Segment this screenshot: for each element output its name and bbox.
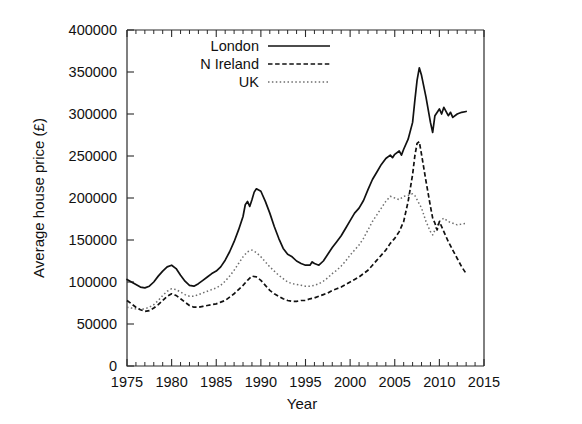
- y-axis-title: Average house price (£): [30, 118, 47, 278]
- x-axis-title: Year: [287, 395, 317, 412]
- legend-label: London: [211, 38, 259, 54]
- y-tick-label: 50000: [77, 316, 117, 332]
- y-tick-label: 250000: [69, 148, 117, 164]
- y-tick-label: 0: [109, 358, 117, 374]
- y-tick-label: 400000: [69, 22, 117, 38]
- x-tick-label: 2015: [468, 374, 500, 390]
- x-tick-label: 1985: [200, 374, 232, 390]
- y-tick-labels: 0500001000001500002000002500003000003500…: [69, 22, 117, 374]
- x-tick-label: 1990: [245, 374, 277, 390]
- x-tick-label: 1975: [111, 374, 143, 390]
- x-tick-label: 2000: [334, 374, 366, 390]
- y-tick-label: 350000: [69, 64, 117, 80]
- y-tick-label: 100000: [69, 274, 117, 290]
- x-tick-label: 1995: [289, 374, 321, 390]
- chart-figure: Average house price (£) Year 05000010000…: [0, 0, 582, 424]
- x-tick-labels: 197519801985199019952000200520102015: [111, 374, 500, 390]
- chart-canvas: Average house price (£) Year 05000010000…: [0, 0, 582, 424]
- x-tick-label: 2010: [423, 374, 455, 390]
- x-tick-label: 1980: [155, 374, 187, 390]
- y-tick-label: 150000: [69, 232, 117, 248]
- legend-label: N Ireland: [200, 56, 259, 72]
- x-tick-label: 2005: [379, 374, 411, 390]
- y-tick-label: 200000: [69, 190, 117, 206]
- legend-label: UK: [239, 74, 259, 90]
- y-tick-label: 300000: [69, 106, 117, 122]
